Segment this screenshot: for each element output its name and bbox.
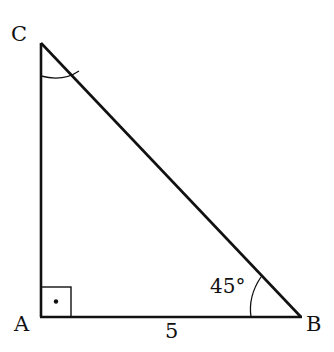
side-label-ab: 5 [165,319,178,343]
vertex-label-c: C [11,22,27,46]
triangle-diagram: C A B 5 45° [0,0,334,352]
vertex-label-a: A [13,312,30,336]
side-cb [41,43,301,317]
right-angle-dot [54,299,58,303]
vertex-label-b: B [306,312,321,336]
angle-label-b: 45° [210,274,245,298]
angle-arc-b [250,277,261,317]
